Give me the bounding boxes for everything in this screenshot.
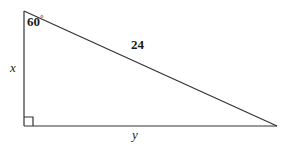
angle-value: 60 bbox=[27, 14, 40, 29]
triangle-side-hypotenuse bbox=[24, 11, 277, 126]
geometry-figure: 60° 24 x y bbox=[0, 0, 292, 147]
degree-symbol-icon: ° bbox=[40, 13, 44, 23]
right-angle-marker-icon bbox=[24, 117, 33, 126]
vertical-leg-label: x bbox=[10, 61, 16, 74]
horizontal-leg-label: y bbox=[132, 128, 138, 141]
angle-label-60-degrees: 60° bbox=[27, 15, 44, 28]
hypotenuse-length-label: 24 bbox=[131, 38, 144, 51]
